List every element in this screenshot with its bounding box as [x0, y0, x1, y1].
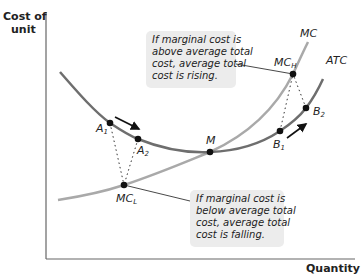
x-axis-label: Quantity	[306, 262, 360, 275]
note-falling-line: If marginal cost is	[196, 193, 278, 205]
point-a1	[107, 120, 114, 127]
dotted-a2-mcl	[124, 139, 138, 185]
note-falling-line: cost, average total	[196, 217, 278, 229]
note-rising-line: above average total	[152, 46, 230, 58]
note-rising-line: cost, average total	[152, 58, 230, 70]
note-falling-line: cost is falling.	[196, 229, 278, 241]
dotted-a1-mcl	[110, 123, 124, 185]
point-a2-label: A2	[136, 144, 150, 158]
point-mc-h-label: MCH	[274, 56, 297, 70]
arrow-rising	[287, 124, 306, 138]
point-m	[207, 149, 214, 156]
atc-curve-label: ATC	[325, 54, 347, 67]
note-falling-line: below average total	[196, 205, 278, 217]
note-rising-line: cost is rising.	[152, 70, 230, 82]
y-axis-label-line1: Cost of	[3, 10, 47, 23]
point-b1-label: B1	[273, 138, 285, 152]
y-axis-label-line2: unit	[11, 23, 36, 36]
note-falling: If marginal cost is below average total …	[190, 190, 284, 247]
point-mc-l-label: MCL	[116, 192, 137, 206]
mc-curve-label: MC	[300, 27, 317, 40]
point-b2	[303, 105, 310, 112]
point-a2	[135, 136, 142, 143]
point-m-label: M	[206, 134, 216, 147]
dotted-b2-mch	[293, 74, 306, 108]
point-mc-l	[121, 182, 128, 189]
note-rising-line: If marginal cost is	[152, 34, 230, 46]
point-a1-label: A1	[95, 122, 108, 136]
point-b1	[277, 128, 284, 135]
point-b2-label: B2	[313, 105, 326, 119]
point-mc-h	[290, 71, 297, 78]
note-rising: If marginal cost is above average total …	[146, 31, 236, 88]
